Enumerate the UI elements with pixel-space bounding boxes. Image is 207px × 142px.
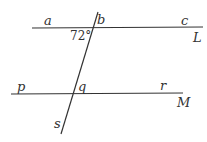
label-c: c	[181, 13, 189, 28]
label-p: p	[17, 79, 26, 94]
line-L	[32, 27, 203, 28]
label-q: q	[78, 79, 86, 94]
label-r: r	[160, 78, 167, 93]
parallel-lines-diagram: a b c L 72° p q r M s	[0, 0, 207, 142]
label-L: L	[192, 30, 202, 45]
label-a: a	[44, 13, 52, 28]
label-M: M	[176, 95, 191, 110]
label-b: b	[97, 12, 105, 27]
angle-label: 72°	[70, 29, 91, 43]
line-M	[11, 93, 183, 94]
label-s: s	[54, 116, 61, 131]
